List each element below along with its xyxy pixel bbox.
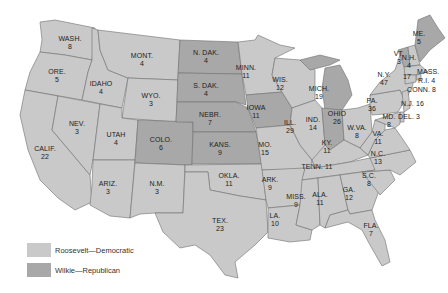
label-ga: GA.12	[343, 186, 355, 202]
label-me: ME.5	[413, 30, 426, 46]
label-ark: ARK.9	[262, 176, 279, 192]
label-va: VA.11	[372, 130, 383, 146]
label-ny: N.Y.47	[377, 71, 390, 87]
label-la: LA.10	[270, 212, 281, 228]
label-nj: N.J. 16	[401, 100, 424, 108]
label-kans: KANS.9	[209, 141, 231, 157]
label-ndak: N. DAK.4	[193, 49, 219, 65]
label-fla: FLA.7	[363, 222, 378, 238]
label-wis: WIS.12	[272, 76, 288, 92]
legend-republican: Wilkie—Republican	[27, 263, 134, 277]
label-nebr: NEBR.7	[199, 111, 221, 127]
label-sdak: S. DAK.4	[193, 82, 219, 98]
label-minn: MINN.11	[236, 64, 256, 80]
label-nc: N.C.13	[371, 150, 385, 166]
label-ariz: ARIZ.3	[99, 180, 117, 196]
label-tenn: TENN. 11	[301, 163, 332, 171]
label-miss: MISS.9	[286, 193, 306, 209]
label-mass: MASS.	[417, 68, 439, 76]
label-ky: KY.11	[322, 139, 333, 155]
label-sc: S.C.8	[362, 172, 376, 188]
state-florida	[325, 210, 390, 266]
label-tex: TEX.23	[212, 217, 228, 233]
legend-swatch-democratic	[27, 243, 51, 257]
legend-swatch-republican	[27, 263, 51, 277]
label-wyo: WYO.3	[141, 92, 160, 108]
label-ore: ORE.5	[48, 68, 66, 84]
legend-label-republican: Wilkie—Republican	[55, 266, 120, 275]
label-calif: CALIF.22	[34, 145, 56, 161]
legend-democratic: Roosevelt—Democratic	[27, 243, 134, 257]
label-mont: MONT.4	[131, 52, 153, 68]
label-iowa: IOWA11	[247, 104, 266, 120]
label-ri: R.I. 4	[418, 77, 435, 85]
label-okla: OKLA.11	[218, 172, 239, 188]
label-ala: ALA.11	[312, 191, 328, 207]
label-md: MD.8	[382, 113, 395, 129]
label-mass-votes: 17	[403, 73, 411, 81]
label-pa: PA.36	[366, 97, 377, 113]
label-ill: ILL.29	[284, 119, 296, 135]
label-mich: MICH.19	[309, 85, 329, 101]
label-colo: COLO.6	[150, 136, 172, 152]
label-ind: IND.14	[306, 116, 320, 132]
label-wash: WASH.8	[58, 35, 81, 51]
label-idaho: IDAHO4	[90, 80, 113, 96]
label-mo: MO.15	[258, 141, 272, 157]
label-nm: N.M.3	[149, 180, 164, 196]
label-nh: N.H.4	[402, 54, 416, 70]
label-utah: UTAH4	[107, 131, 126, 147]
label-del: DEL. 3	[398, 113, 420, 121]
label-nev: NEV.3	[69, 120, 85, 136]
label-conn: CONN. 8	[407, 86, 436, 94]
legend-label-democratic: Roosevelt—Democratic	[55, 246, 134, 255]
label-wva: W.VA.8	[347, 124, 366, 140]
legend: Roosevelt—Democratic Wilkie—Republican	[27, 243, 134, 283]
label-ohio: OHIO26	[328, 110, 346, 126]
